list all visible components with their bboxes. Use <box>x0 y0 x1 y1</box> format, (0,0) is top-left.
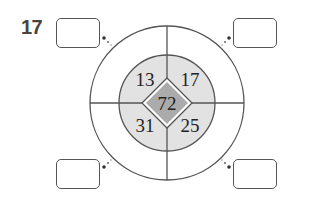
center-value: 72 <box>158 93 177 114</box>
answer-box-top-right[interactable] <box>233 18 277 48</box>
leader-bottom-left <box>102 159 112 169</box>
leader-bottom-right <box>221 159 231 169</box>
answer-box-bottom-left[interactable] <box>56 159 100 189</box>
answer-box-top-left[interactable] <box>56 18 100 48</box>
quadrant-value-top-right: 17 <box>181 69 200 90</box>
answer-box-bottom-right[interactable] <box>233 159 277 189</box>
quadrant-value-bottom-right: 25 <box>181 115 200 136</box>
leader-top-right <box>221 36 231 46</box>
leader-top-left <box>102 36 112 46</box>
quadrant-value-bottom-left: 31 <box>136 115 155 136</box>
quadrant-value-top-left: 13 <box>136 69 155 90</box>
